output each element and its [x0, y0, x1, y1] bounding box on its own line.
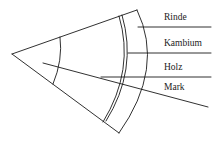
label-mark: Mark — [164, 82, 185, 92]
wood-cross-section-diagram: Rinde Kambium Holz Mark — [0, 0, 220, 146]
label-holz: Holz — [164, 62, 182, 72]
cambium-outer-line — [106, 15, 127, 121]
sector-lower-edge — [12, 54, 119, 133]
sector-upper-edge — [12, 10, 137, 54]
cambium-inner-line — [103, 16, 124, 122]
label-rinde: Rinde — [164, 12, 187, 22]
pith-boundary-arc — [53, 37, 61, 84]
bark-outer-arc — [119, 10, 148, 133]
label-kambium: Kambium — [164, 38, 203, 48]
